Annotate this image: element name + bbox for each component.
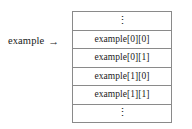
table-row: ⋮ xyxy=(73,12,171,31)
cell-ellipsis-bottom-icon: ⋮ xyxy=(117,107,128,118)
table-row: example[1][1] xyxy=(73,86,171,105)
array-memory-layout-diagram: example → ⋮ example[0][0] example[0][1] … xyxy=(0,0,192,129)
cell-label: example[1][1] xyxy=(95,90,150,100)
cell-label: example[0][0] xyxy=(95,35,150,45)
memory-cell-table: ⋮ example[0][0] example[0][1] example[1]… xyxy=(72,11,172,123)
table-row: example[0][0] xyxy=(73,31,171,50)
pointer-label: example xyxy=(8,36,44,47)
cell-ellipsis-top-icon: ⋮ xyxy=(117,15,128,26)
cell-label: example[1][0] xyxy=(95,72,150,82)
table-row: ⋮ xyxy=(73,105,171,123)
table-row: example[1][0] xyxy=(73,68,171,87)
pointer-label-group: example → xyxy=(8,33,68,50)
right-arrow-icon: → xyxy=(48,36,59,47)
table-row: example[0][1] xyxy=(73,49,171,68)
cell-label: example[0][1] xyxy=(95,53,150,63)
